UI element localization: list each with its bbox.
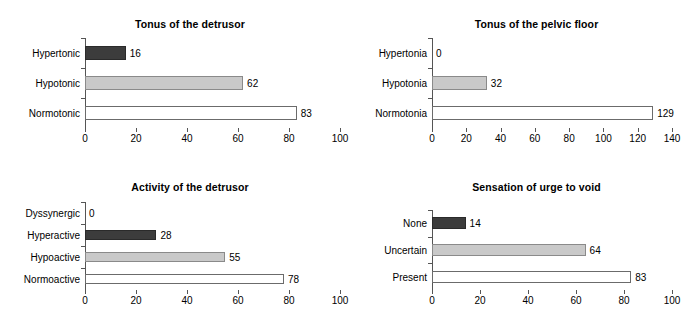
chart-panel-tonus-pelvic-floor: Tonus of the pelvic floor 02040608010012… [346, 0, 693, 164]
bar-value-label: 83 [301, 108, 312, 119]
x-axis-tick-label: 60 [529, 133, 540, 144]
x-axis-tick-label: 20 [130, 295, 141, 306]
chart-title: Tonus of the detrusor [40, 18, 340, 30]
x-axis-tick [672, 290, 673, 294]
x-axis-tick-label: 140 [664, 133, 681, 144]
y-axis-tick [428, 98, 432, 99]
category-label: Present [393, 271, 427, 282]
bar [432, 271, 631, 283]
bar-value-label: 28 [160, 230, 171, 241]
x-axis-tick-label: 0 [429, 133, 435, 144]
x-axis-tick [501, 128, 502, 132]
bar [85, 230, 156, 240]
y-axis-tick [81, 268, 85, 269]
category-label: Normotonia [375, 108, 427, 119]
bar [85, 106, 297, 120]
x-axis-tick [569, 128, 570, 132]
y-axis-tick [428, 210, 432, 211]
category-label: Hypertonic [32, 48, 80, 59]
x-axis-tick-label: 20 [461, 133, 472, 144]
x-axis-tick-label: 80 [618, 295, 629, 306]
bar [85, 252, 225, 262]
x-axis-tick [187, 128, 188, 132]
chart-panel-tonus-detrusor: Tonus of the detrusor 020406080100Normot… [0, 0, 346, 164]
bar-value-label: 16 [130, 48, 141, 59]
chart-panel-sensation-urge-void: Sensation of urge to void 020406080100Pr… [346, 164, 693, 327]
category-label: Hypoactive [31, 252, 80, 263]
y-axis-tick [81, 38, 85, 39]
x-axis-tick [432, 290, 433, 294]
y-axis-tick [428, 237, 432, 238]
category-label: Normoactive [24, 274, 80, 285]
x-axis-tick [576, 290, 577, 294]
x-axis-tick [466, 128, 467, 132]
bar [432, 76, 487, 90]
category-label: Hypotonic [36, 78, 80, 89]
bar [432, 217, 466, 229]
bar-value-label: 55 [229, 252, 240, 263]
bar-value-label: 62 [247, 78, 258, 89]
bar-value-label: 83 [635, 271, 646, 282]
y-axis-tick [81, 68, 85, 69]
category-label: Hyperactive [27, 230, 80, 241]
x-axis-tick [289, 290, 290, 294]
chart-title: Activity of the detrusor [40, 181, 340, 193]
x-axis-tick [187, 290, 188, 294]
x-axis-tick [238, 290, 239, 294]
chart-title: Tonus of the pelvic floor [386, 18, 687, 30]
x-axis-tick-label: 40 [495, 133, 506, 144]
y-axis-tick [428, 68, 432, 69]
bar-value-label: 78 [288, 274, 299, 285]
x-axis-tick [528, 290, 529, 294]
x-axis-tick-label: 40 [181, 295, 192, 306]
category-label: Normotonic [29, 108, 80, 119]
y-axis-tick [81, 98, 85, 99]
category-label: None [403, 218, 427, 229]
x-axis-tick [480, 290, 481, 294]
bar-value-label: 64 [590, 245, 601, 256]
y-axis-tick [428, 38, 432, 39]
x-axis-tick [624, 290, 625, 294]
x-axis-tick [85, 128, 86, 132]
x-axis-tick-label: 60 [232, 133, 243, 144]
category-label: Dyssynergic [26, 208, 80, 219]
x-axis-tick [85, 290, 86, 294]
bar-value-label: 129 [657, 108, 674, 119]
plot-area: 020406080100120140Normotonia129Hypotonia… [432, 38, 672, 128]
bar [85, 76, 243, 90]
x-axis-tick-label: 20 [130, 133, 141, 144]
y-axis-tick [81, 246, 85, 247]
x-axis-tick [432, 128, 433, 132]
x-axis-tick-label: 60 [232, 295, 243, 306]
y-axis-tick [81, 202, 85, 203]
x-axis-tick [340, 290, 341, 294]
x-axis-tick-label: 0 [82, 295, 88, 306]
plot-area: 020406080100Normoactive78Hypoactive55Hyp… [85, 202, 340, 290]
x-axis-tick-label: 100 [595, 133, 612, 144]
x-axis-tick-label: 80 [283, 133, 294, 144]
bar-value-label: 0 [436, 48, 442, 59]
bar-value-label: 14 [470, 218, 481, 229]
bar-value-label: 0 [89, 208, 95, 219]
y-axis-tick [428, 263, 432, 264]
category-label: Hypertonia [379, 48, 427, 59]
x-axis-tick [603, 128, 604, 132]
x-axis-tick-label: 80 [564, 133, 575, 144]
x-axis-tick-label: 0 [82, 133, 88, 144]
x-axis-tick [638, 128, 639, 132]
x-axis-tick-label: 60 [570, 295, 581, 306]
x-axis-tick [535, 128, 536, 132]
plot-area: 020406080100Normotonic83Hypotonic62Hyper… [85, 38, 340, 128]
category-label: Uncertain [384, 245, 427, 256]
y-axis-tick [81, 224, 85, 225]
bar [432, 244, 586, 256]
x-axis-tick [136, 128, 137, 132]
figure-grid: Tonus of the detrusor 020406080100Normot… [0, 0, 693, 327]
x-axis-tick-label: 20 [474, 295, 485, 306]
x-axis-tick-label: 100 [664, 295, 681, 306]
bar [432, 106, 653, 120]
category-label: Hypotonia [382, 78, 427, 89]
x-axis-tick-label: 120 [629, 133, 646, 144]
x-axis-tick-label: 40 [522, 295, 533, 306]
chart-title: Sensation of urge to void [386, 181, 687, 193]
